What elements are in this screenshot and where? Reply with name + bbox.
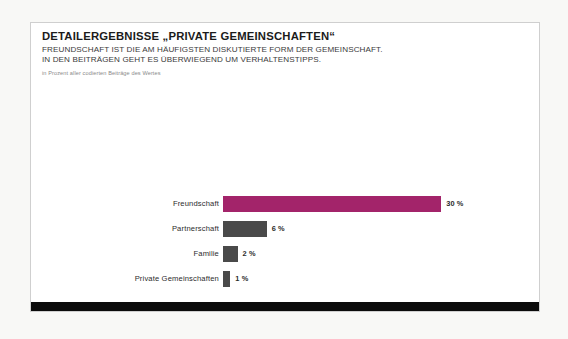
slide-header: DETAILERGEBNISSE „PRIVATE GEMEINSCHAFTEN… bbox=[42, 30, 512, 76]
slide-canvas: DETAILERGEBNISSE „PRIVATE GEMEINSCHAFTEN… bbox=[30, 22, 540, 312]
bar-segment bbox=[223, 271, 230, 287]
page-title: DETAILERGEBNISSE „PRIVATE GEMEINSCHAFTEN… bbox=[42, 30, 512, 43]
subtitle-block: FREUNDSCHAFT IST DIE AM HÄUFIGSTEN DISKU… bbox=[42, 45, 512, 64]
bar-row: Freundschaft30 % bbox=[31, 191, 540, 216]
bar-segment bbox=[223, 196, 441, 212]
bar-value-label: 30 % bbox=[446, 199, 463, 208]
bar-row: Partnerschaft6 % bbox=[31, 216, 540, 241]
subtitle-line-2: IN DEN BEITRÄGEN GEHT ES ÜBERWIEGEND UM … bbox=[42, 55, 512, 65]
bar-row: Familie2 % bbox=[31, 241, 540, 266]
bar-row: Private Gemeinschaften1 % bbox=[31, 266, 540, 291]
bar-category-label: Freundschaft bbox=[31, 199, 219, 208]
subtitle-line-1: FREUNDSCHAFT IST DIE AM HÄUFIGSTEN DISKU… bbox=[42, 45, 512, 55]
bar-track: 6 % bbox=[223, 221, 285, 237]
bar-value-label: 1 % bbox=[235, 274, 248, 283]
bar-value-label: 6 % bbox=[272, 224, 285, 233]
bar-chart-plot-area: Freundschaft30 %Partnerschaft6 %Familie2… bbox=[31, 191, 540, 301]
footer-black-band bbox=[31, 302, 540, 311]
bar-category-label: Private Gemeinschaften bbox=[31, 274, 219, 283]
bar-segment bbox=[223, 221, 267, 237]
bar-segment bbox=[223, 246, 238, 262]
source-note: in Prozent aller codierten Beiträge des … bbox=[42, 70, 512, 76]
bar-category-label: Partnerschaft bbox=[31, 224, 219, 233]
bar-track: 1 % bbox=[223, 271, 248, 287]
bar-track: 2 % bbox=[223, 246, 256, 262]
bar-value-label: 2 % bbox=[243, 249, 256, 258]
bar-track: 30 % bbox=[223, 196, 463, 212]
bar-category-label: Familie bbox=[31, 249, 219, 258]
